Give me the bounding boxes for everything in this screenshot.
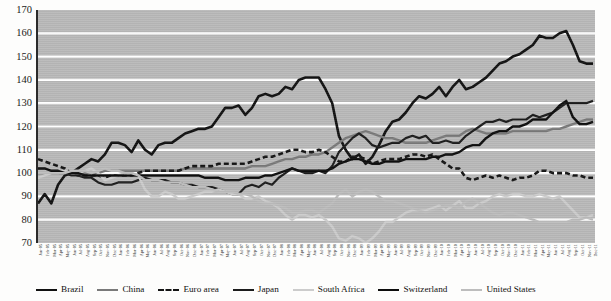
x-tick-label: Aug-06 — [166, 244, 170, 257]
legend-label: China — [122, 285, 144, 294]
x-tick-label: Oct-05 — [99, 244, 103, 256]
series-south-africa — [38, 168, 593, 243]
legend-item: Switzerland — [378, 285, 447, 294]
y-axis: 170160150140130120110100908070 — [0, 0, 32, 301]
y-tick-label: 130 — [2, 98, 32, 109]
x-tick-label: Jan-07 — [200, 244, 204, 256]
x-tick-label: Feb-11 — [527, 244, 531, 256]
x-tick-label: Mar-05 — [53, 244, 57, 257]
x-tick-label: Apr-09 — [380, 244, 384, 256]
x-tick-label: Aug-09 — [407, 244, 411, 257]
x-tick-label: Dec-09 — [434, 244, 438, 257]
x-tick-label: Nov-10 — [507, 244, 511, 257]
y-tick-label: 170 — [2, 5, 32, 16]
legend-label: South Africa — [318, 285, 365, 294]
x-tick-label: Oct-10 — [501, 244, 505, 256]
x-tick-label: Sep-11 — [574, 244, 578, 256]
x-tick-label: May-10 — [467, 244, 471, 258]
x-tick-label: Nov-08 — [347, 244, 351, 257]
chart-container: 170160150140130120110100908070 Jan-05Feb… — [0, 0, 611, 301]
x-tick-label: Dec-05 — [113, 244, 117, 257]
x-tick-label: Mar-09 — [374, 244, 378, 257]
x-tick-label: Nov-05 — [106, 244, 110, 257]
x-tick-label: Apr-07 — [220, 244, 224, 256]
x-tick-label: Sep-10 — [494, 244, 498, 256]
legend-swatch-icon — [36, 289, 57, 291]
x-tick-label: Sep-05 — [93, 244, 97, 256]
x-tick-label: May-11 — [547, 244, 551, 257]
x-tick-label: Oct-11 — [581, 244, 585, 256]
y-tick-label: 110 — [2, 145, 32, 156]
x-tick-label: Oct-06 — [180, 244, 184, 256]
x-tick-label: May-07 — [226, 244, 230, 258]
y-tick-label: 160 — [2, 28, 32, 39]
x-tick-label: Jul-06 — [160, 244, 164, 255]
legend-item: South Africa — [293, 285, 365, 294]
legend-label: Switzerland — [403, 285, 447, 294]
x-tick-label: Feb-07 — [206, 244, 210, 256]
x-tick-label: Sep-07 — [253, 244, 257, 256]
series-lines — [36, 10, 595, 243]
x-tick-label: Jul-07 — [240, 244, 244, 255]
x-tick-label: Sep-08 — [333, 244, 337, 256]
x-tick-label: Feb-10 — [447, 244, 451, 256]
x-tick-label: Oct-07 — [260, 244, 264, 256]
legend-swatch-icon — [293, 289, 314, 291]
y-tick-label: 90 — [2, 191, 32, 202]
x-tick-label: Sep-06 — [173, 244, 177, 256]
x-tick-label: Jan-09 — [360, 244, 364, 256]
y-tick-label: 80 — [2, 215, 32, 226]
legend-label: Euro area — [183, 285, 218, 294]
x-tick-label: Feb-09 — [367, 244, 371, 256]
x-tick-label: Sep-09 — [414, 244, 418, 256]
x-tick-label: May-09 — [387, 244, 391, 258]
series-japan — [38, 101, 593, 194]
x-tick-label: Aug-11 — [567, 244, 571, 257]
x-tick-label: Feb-05 — [46, 244, 50, 256]
legend-label: Brazil — [61, 285, 83, 294]
y-tick-label: 140 — [2, 75, 32, 86]
x-tick-label: Nov-09 — [427, 244, 431, 257]
x-tick-label: Aug-07 — [246, 244, 250, 257]
legend-swatch-icon — [97, 289, 118, 291]
x-tick-label: Mar-11 — [534, 244, 538, 257]
x-tick-label: Oct-09 — [420, 244, 424, 256]
x-tick-label: Jul-09 — [400, 244, 404, 255]
x-tick-label: Mar-08 — [293, 244, 297, 257]
legend-swatch-icon — [461, 289, 482, 291]
x-tick-label: Apr-11 — [541, 244, 545, 256]
x-tick-label: Dec-08 — [353, 244, 357, 257]
legend-item: United States — [461, 285, 535, 294]
x-tick-label: Dec-11 — [594, 244, 598, 257]
legend-label: Japan — [258, 285, 279, 294]
x-tick-label: Jan-05 — [39, 244, 43, 256]
x-tick-label: Feb-08 — [287, 244, 291, 256]
x-tick-label: Jan-10 — [440, 244, 444, 256]
legend-item: Brazil — [36, 285, 83, 294]
x-tick-label: Feb-06 — [126, 244, 130, 256]
y-tick-label: 120 — [2, 122, 32, 133]
x-tick-label: Dec-07 — [273, 244, 277, 257]
x-tick-label: Mar-10 — [454, 244, 458, 257]
x-tick-label: Jun-06 — [153, 244, 157, 256]
legend-swatch-icon — [158, 289, 179, 291]
legend-item: Japan — [233, 285, 279, 294]
y-tick-label: 100 — [2, 168, 32, 179]
legend-swatch-icon — [233, 289, 254, 291]
x-tick-label: Aug-10 — [487, 244, 491, 257]
x-tick-label: May-06 — [146, 244, 150, 258]
x-tick-label: Dec-06 — [193, 244, 197, 257]
legend-label: United States — [486, 285, 535, 294]
x-tick-label: Mar-07 — [213, 244, 217, 257]
legend-swatch-icon — [378, 289, 399, 291]
series-switzerland — [38, 101, 593, 180]
x-tick-label: Jul-10 — [481, 244, 485, 255]
x-tick-label: Apr-06 — [140, 244, 144, 256]
y-tick-label: 150 — [2, 52, 32, 63]
x-tick-label: Aug-08 — [327, 244, 331, 257]
x-tick-label: Jul-05 — [79, 244, 83, 255]
y-tick-label: 70 — [2, 238, 32, 249]
x-tick-label: Jan-06 — [119, 244, 123, 256]
x-tick-label: Jan-11 — [521, 244, 525, 255]
x-tick-label: Jul-11 — [561, 244, 565, 255]
